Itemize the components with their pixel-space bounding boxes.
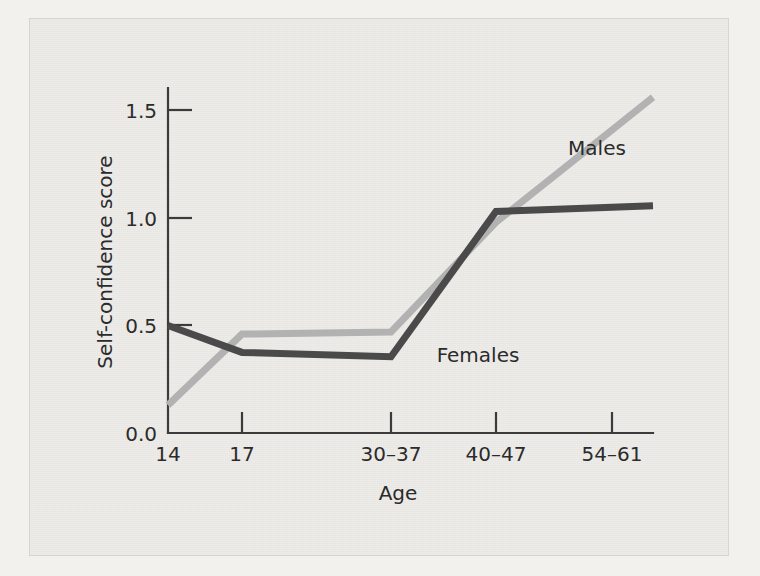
figure-container: 1.5 1.0 0.5 0.0 14 17 30–37 40–47 54–61 … xyxy=(0,0,760,576)
x-tick-marks xyxy=(242,412,612,433)
x-tick-label-30-37: 30–37 xyxy=(361,442,422,466)
series-label-males: Males xyxy=(568,136,626,160)
x-tick-label-17: 17 xyxy=(229,442,254,466)
series-label-females: Females xyxy=(437,343,520,367)
x-axis-title: Age xyxy=(379,481,418,505)
y-axis-title: Self-confidence score xyxy=(93,155,117,368)
x-tick-label-14: 14 xyxy=(155,442,180,466)
line-chart: 1.5 1.0 0.5 0.0 14 17 30–37 40–47 54–61 … xyxy=(0,0,760,576)
y-tick-label-0.0: 0.0 xyxy=(125,422,157,446)
y-tick-marks xyxy=(168,110,192,325)
y-tick-label-1.5: 1.5 xyxy=(125,99,157,123)
x-tick-label-40-47: 40–47 xyxy=(466,442,527,466)
y-tick-label-0.5: 0.5 xyxy=(125,314,157,338)
x-tick-label-54-61: 54–61 xyxy=(582,442,643,466)
y-tick-label-1.0: 1.0 xyxy=(125,207,157,231)
